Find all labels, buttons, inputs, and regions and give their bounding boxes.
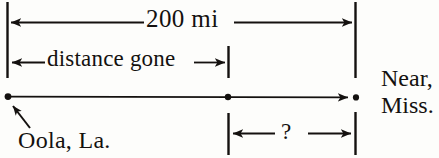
distance-gone-label: distance gone — [47, 47, 175, 70]
current-position-point — [225, 94, 231, 100]
destination-city-label-line2: Miss. — [381, 92, 434, 119]
diagram-canvas: 200 mi distance gone ? Oola, La. Near, M… — [0, 0, 439, 158]
route-line — [8, 97, 348, 98]
origin-city-label: Oola, La. — [18, 128, 111, 152]
origin-pointer-arrow — [13, 106, 30, 128]
origin-point — [5, 93, 12, 100]
destination-city-label: Near, Miss. — [381, 65, 434, 119]
unknown-distance-label: ? — [281, 120, 291, 143]
total-distance-label: 200 mi — [146, 6, 219, 31]
destination-point — [353, 94, 359, 100]
destination-city-label-line1: Near, — [381, 65, 434, 92]
